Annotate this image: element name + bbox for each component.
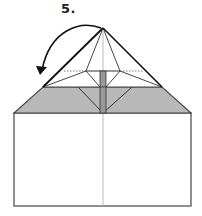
- center-strip: [100, 71, 106, 113]
- origami-diagram: [0, 0, 202, 216]
- arrowhead-icon: [36, 66, 47, 75]
